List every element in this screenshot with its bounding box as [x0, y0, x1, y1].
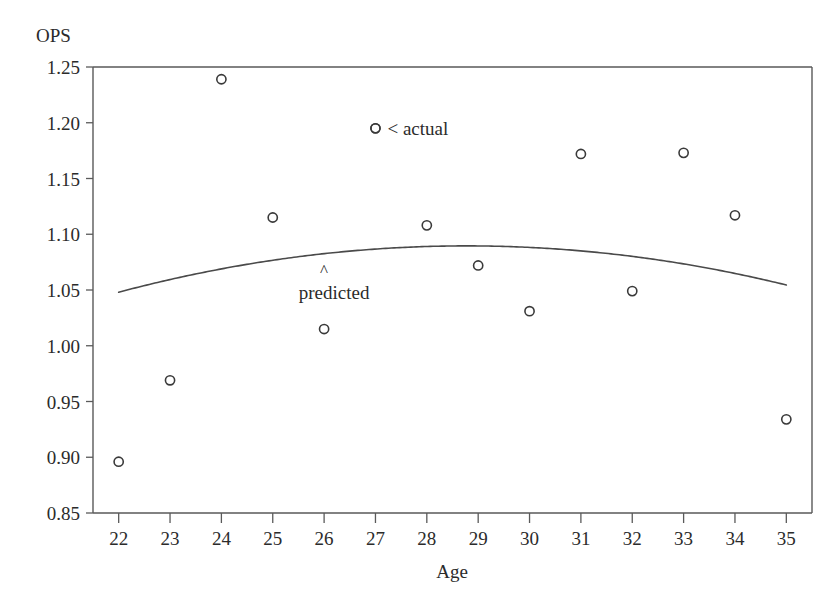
- x-tick-label: 34: [725, 528, 745, 549]
- data-point-marker: [782, 415, 791, 424]
- data-point-marker: [730, 211, 739, 220]
- plot-frame: [93, 67, 812, 513]
- chart-canvas: OPS 0.850.900.951.001.051.101.151.201.25…: [0, 0, 834, 606]
- data-point-marker: [268, 213, 277, 222]
- x-tick-label: 28: [417, 528, 436, 549]
- x-tick-label: 33: [674, 528, 693, 549]
- predicted-label: predicted: [299, 282, 370, 303]
- data-point-marker: [474, 261, 483, 270]
- y-tick-label: 1.00: [47, 336, 80, 357]
- data-point-marker: [576, 149, 585, 158]
- x-tick-label: 32: [623, 528, 642, 549]
- y-tick-label: 1.15: [47, 169, 80, 190]
- y-tick-label: 1.25: [47, 57, 80, 78]
- x-axis-ticks: 2223242526272829303132333435: [109, 513, 796, 549]
- x-tick-label: 26: [315, 528, 334, 549]
- data-point-marker: [525, 307, 534, 316]
- open-circle-icon: [371, 124, 380, 133]
- data-point-marker: [679, 148, 688, 157]
- x-tick-label: 23: [161, 528, 180, 549]
- x-tick-label: 35: [777, 528, 796, 549]
- x-tick-label: 24: [212, 528, 232, 549]
- y-tick-label: 1.05: [47, 280, 80, 301]
- data-point-marker: [114, 457, 123, 466]
- data-point-marker: [217, 75, 226, 84]
- data-point-marker: [320, 324, 329, 333]
- ops-vs-age-scatter-chart: OPS 0.850.900.951.001.051.101.151.201.25…: [0, 0, 834, 606]
- caret-icon: ^: [320, 261, 328, 280]
- predicted-curve: [119, 246, 787, 292]
- y-tick-label: 1.10: [47, 224, 80, 245]
- y-tick-label: 0.95: [47, 392, 80, 413]
- x-tick-label: 25: [263, 528, 282, 549]
- data-point-marker: [422, 221, 431, 230]
- y-axis-ticks: 0.850.900.951.001.051.101.151.201.25: [47, 57, 93, 524]
- x-tick-label: 22: [109, 528, 128, 549]
- y-tick-label: 0.90: [47, 447, 80, 468]
- y-tick-label: 1.20: [47, 113, 80, 134]
- predicted-label-annotation: ^ predicted: [299, 261, 370, 303]
- y-tick-label: 0.85: [47, 503, 80, 524]
- actual-legend-annotation: < actual: [371, 118, 448, 139]
- actual-legend-label: < actual: [387, 118, 448, 139]
- x-axis-title: Age: [436, 561, 468, 582]
- x-tick-label: 29: [469, 528, 488, 549]
- y-axis-title: OPS: [36, 25, 71, 46]
- data-point-marker: [165, 376, 174, 385]
- data-point-marker: [628, 287, 637, 296]
- x-tick-label: 31: [571, 528, 590, 549]
- x-tick-label: 30: [520, 528, 539, 549]
- x-tick-label: 27: [366, 528, 385, 549]
